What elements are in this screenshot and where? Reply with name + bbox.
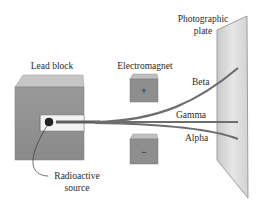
plate-label-line1: Photographic — [178, 14, 229, 24]
electromagnet-label: Electromagnet — [117, 61, 173, 71]
source-label-line1: Radioactive — [54, 171, 99, 181]
beta-beam — [95, 68, 238, 122]
plate-label-line2: plate — [194, 26, 212, 36]
electromagnet-negative: − — [130, 134, 158, 164]
lead-block-top — [15, 75, 84, 87]
gamma-label: Gamma — [176, 110, 207, 120]
source-label-line2: source — [65, 183, 90, 193]
diagram-canvas: + − Lead block Electromagnet Photographi… — [0, 0, 263, 209]
positive-pole-label: + — [141, 86, 146, 96]
lead-block-label: Lead block — [31, 61, 74, 71]
electromagnet-positive: + — [130, 74, 158, 102]
negative-pole-label: − — [141, 147, 146, 157]
lead-block — [15, 75, 84, 160]
beta-label: Beta — [192, 77, 210, 87]
photographic-plate — [217, 16, 248, 198]
alpha-label: Alpha — [185, 133, 209, 143]
radioactive-source — [45, 118, 53, 126]
alpha-beam — [95, 123, 238, 139]
